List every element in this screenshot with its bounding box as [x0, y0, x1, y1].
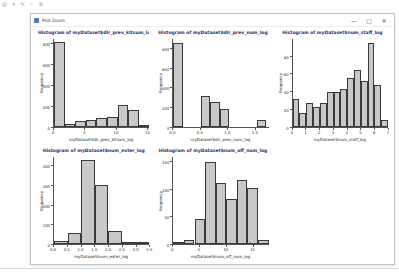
histogram-bar: [299, 113, 306, 126]
cropped-toolbar-fragment: ▤ ▾ ✎ ⌗ ≣: [2, 1, 45, 8]
x-tick-label: 0.5: [197, 130, 203, 135]
x-tick-label: 1.5: [91, 247, 97, 252]
window-icon: [34, 18, 39, 23]
x-axis-label: myDataset$dlr_prev_kltsum_log: [53, 137, 149, 144]
close-button[interactable]: ✕: [377, 15, 391, 25]
histogram-bar: [54, 241, 68, 244]
plot-area: [53, 157, 149, 246]
x-tick-label: 15: [145, 130, 150, 135]
x-tick-label: 2: [318, 130, 320, 135]
histogram-bar: [220, 109, 229, 127]
y-tick-label: 200: [162, 105, 169, 110]
histogram-bar: [75, 121, 86, 126]
plot-area: [53, 39, 149, 128]
histogram-bar: [173, 242, 184, 244]
histogram-num-staff-log: Histogram of myDataset$num_staff_log Fre…: [277, 28, 388, 144]
y-tick-label: 50: [164, 215, 169, 220]
y-tick-label: 200: [43, 203, 50, 208]
screen: ▤ ▾ ✎ ⌗ ≣ Plot Zoom — ▢ ✕ Histogram of m…: [0, 0, 399, 276]
bottom-divider: [0, 268, 399, 269]
histogram-bar: [347, 78, 354, 126]
y-tick-label: 100: [43, 223, 50, 228]
x-tick-label: 2.5: [119, 247, 125, 252]
histogram-bar: [95, 185, 109, 244]
histogram-bar: [86, 120, 97, 126]
x-tick-label: 3: [332, 130, 334, 135]
x-axis-label: myDataset$num_staff_log: [292, 137, 388, 144]
plot-area: [172, 39, 268, 128]
histogram-bar: [334, 92, 341, 127]
plot-area: [292, 39, 388, 128]
x-tick-label: 5: [359, 130, 361, 135]
chart-title: Histogram of myDataset$dlr_prev_kltsum_l…: [38, 28, 149, 39]
histogram-dlr-prev-num-log: Histogram of myDataset$dlr_prev_num_log …: [157, 28, 268, 144]
histogram-bar: [108, 231, 122, 244]
x-tick-label: 2.0: [105, 247, 111, 252]
x-tick-label: 1: [304, 130, 306, 135]
x-tick-label: 1.5: [252, 130, 258, 135]
histogram-bar: [68, 233, 82, 244]
window-controls: — ▢ ✕: [347, 15, 391, 25]
x-tick-label: 5: [83, 130, 85, 135]
x-tick-label: 1.0: [224, 130, 230, 135]
histogram-bar: [361, 81, 368, 127]
histogram-bar: [237, 180, 248, 244]
histogram-bar: [195, 219, 206, 244]
histogram-bar: [205, 162, 216, 244]
plot-zoom-window: Plot Zoom — ▢ ✕ Histogram of myDataset$d…: [30, 13, 395, 265]
histogram-bar: [107, 117, 118, 126]
y-tick-label: 20: [284, 107, 289, 112]
chart-title: Histogram of myDataset$dlr_prev_num_log: [157, 28, 268, 39]
histogram-num-exter-log: Histogram of myDataset$num_exter_log Fre…: [38, 146, 149, 262]
histogram-bar: [313, 107, 320, 126]
x-axis-label: myDataset$num_exter_log: [53, 254, 149, 261]
histogram-bar: [257, 120, 266, 127]
x-tick-label: 15: [250, 247, 255, 252]
x-tick-label: 0: [52, 130, 54, 135]
histogram-bar: [81, 160, 95, 244]
plot-area: [172, 157, 268, 246]
y-tick-label: 100: [162, 187, 169, 192]
x-tick-label: 10: [114, 130, 119, 135]
x-tick-label: 6: [373, 130, 375, 135]
x-tick-label: 1.0: [77, 247, 83, 252]
plot-canvas: Histogram of myDataset$dlr_prev_kltsum_l…: [36, 27, 390, 262]
histogram-bar: [128, 110, 139, 126]
y-tick-label: 300: [43, 184, 50, 189]
y-axis-ticks: 0200400600800: [44, 39, 53, 128]
x-tick-label: 0: [290, 130, 292, 135]
histogram-bar: [216, 183, 227, 244]
histogram-bar: [173, 43, 182, 127]
histogram-bar: [65, 124, 76, 126]
histogram-bar: [139, 125, 150, 127]
window-title: Plot Zoom: [42, 18, 347, 23]
y-axis-ticks: 0200400600800: [163, 39, 172, 128]
y-axis-ticks: 020406080: [283, 39, 292, 128]
y-tick-label: 600: [162, 66, 169, 71]
histogram-bar: [247, 188, 258, 244]
minimize-button[interactable]: —: [347, 15, 361, 25]
histogram-bar: [136, 242, 150, 244]
y-axis-ticks: 0100200300400: [44, 157, 53, 246]
histogram-bar: [226, 199, 237, 244]
histogram-bar: [354, 70, 361, 127]
x-tick-label: 0.5: [64, 247, 70, 252]
x-tick-label: 4: [345, 130, 347, 135]
x-axis-ticks: 01234567: [292, 128, 388, 137]
y-tick-label: 400: [43, 164, 50, 169]
histogram-bar: [368, 43, 375, 126]
chart-title: Histogram of myDataset$num_off_num_log: [157, 146, 268, 157]
y-tick-label: 800: [162, 46, 169, 51]
histogram-bar: [374, 85, 381, 127]
x-tick-label: 0.0: [169, 130, 175, 135]
x-axis-ticks: 051015: [172, 245, 268, 254]
window-titlebar[interactable]: Plot Zoom — ▢ ✕: [31, 14, 394, 27]
y-tick-label: 0: [167, 243, 169, 248]
maximize-button[interactable]: ▢: [362, 15, 376, 25]
y-tick-label: 0: [48, 125, 50, 130]
histogram-bar: [54, 42, 65, 126]
x-axis-ticks: 0.00.51.01.52.02.53.03.5: [53, 245, 149, 254]
histogram-bar: [118, 105, 129, 126]
y-tick-label: 0: [286, 125, 288, 130]
y-tick-label: 600: [43, 63, 50, 68]
